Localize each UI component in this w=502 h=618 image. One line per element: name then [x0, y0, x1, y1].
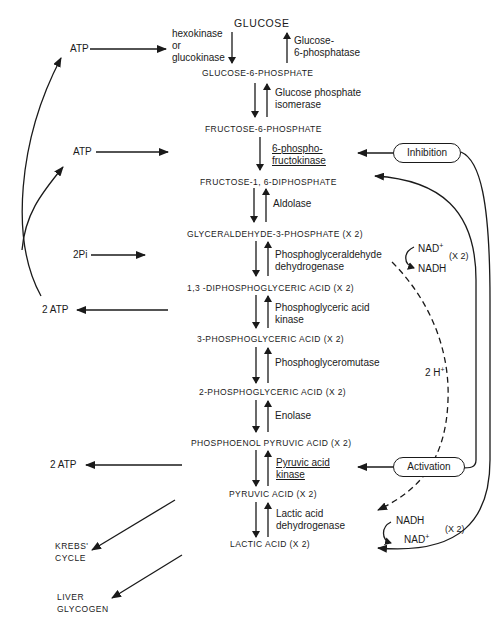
compound-2-phosphoglyceric-acid: 2-PHOSPHOGLYCERIC ACID (X 2): [199, 388, 346, 397]
glycolysis-diagram: GLUCOSE GLUCOSE-6-PHOSPHATE FRUCTOSE-6-P…: [0, 0, 502, 618]
krebs-cycle-label: KREBS' CYCLE: [55, 540, 88, 564]
x2-top: (X 2): [449, 252, 469, 261]
enzyme-lactic-acid-dehydrogenase: Lactic acid dehydrogenase: [276, 508, 345, 532]
compound-phosphoenol-pyruvic-acid: PHOSPHOENOL PYRUVIC ACID (X 2): [191, 439, 351, 448]
enzyme-phosphoglyceric-acid-kinase: Phosphoglyceric acid kinase: [275, 302, 370, 326]
enzyme-enolase: Enolase: [275, 410, 311, 422]
nad-plus-bottom: NAD+: [404, 533, 429, 545]
compound-1-3-diphosphoglyceric-acid: 1,3 -DIPHOSPHOGLYCERIC ACID (X 2): [187, 284, 354, 293]
compound-glucose: GLUCOSE: [234, 18, 290, 29]
nad-plus-top: NAD+: [418, 242, 443, 254]
compound-3-phosphoglyceric-acid: 3-PHOSPHOGLYCERIC ACID (X 2): [197, 335, 344, 344]
enzyme-glucose-6-phosphatase: Glucose- 6-phosphatase: [294, 35, 360, 59]
enzyme-aldolase: Aldolase: [273, 198, 311, 210]
enzyme-hexokinase: hexokinase or glucokinase: [172, 28, 225, 64]
compound-pyruvic-acid: PYRUVIC ACID (X 2): [229, 490, 317, 499]
activation-box: Activation: [393, 457, 465, 477]
nadh-top: NADH: [418, 264, 446, 274]
liver-glycogen-label: LIVER GLYCOGEN: [57, 591, 109, 615]
atp-input-hexokinase: ATP: [70, 44, 89, 54]
x2-bottom: (X 2): [445, 525, 465, 534]
enzyme-pyruvic-acid-kinase: Pyruvic acid kinase: [276, 457, 330, 481]
enzyme-phosphoglyceromutase: Phosphoglyceromutase: [275, 357, 380, 369]
pathway-arrows: [0, 0, 502, 618]
compound-fructose-1-6-diphosphate: FRUCTOSE-1, 6-DIPHOSPHATE: [200, 178, 337, 187]
compound-glucose-6-phosphate: GLUCOSE-6-PHOSPHATE: [202, 69, 313, 78]
compound-glyceraldehyde-3-phosphate: GLYCERALDEHYDE-3-PHOSPHATE (X 2): [187, 230, 363, 239]
enzyme-glucose-phosphate-isomerase: Glucose phosphate isomerase: [275, 87, 361, 111]
atp-output-pk: 2 ATP: [50, 460, 77, 470]
nadh-bottom: NADH: [396, 516, 424, 526]
inhibition-box: Inhibition: [393, 143, 461, 163]
enzyme-6-phosphofructokinase: 6-phospho- fructokinase: [272, 143, 326, 167]
two-h-plus: 2 H+: [425, 366, 445, 378]
atp-input-pfk: ATP: [73, 147, 92, 157]
pi-input: 2Pi: [73, 250, 87, 260]
atp-output-pgk: 2 ATP: [42, 305, 69, 315]
compound-fructose-6-phosphate: FRUCTOSE-6-PHOSPHATE: [205, 125, 322, 134]
enzyme-phosphoglyceraldehyde-dehydrogenase: Phosphoglyceraldehyde dehydrogenase: [275, 249, 382, 273]
compound-lactic-acid: LACTIC ACID (X 2): [230, 540, 310, 549]
